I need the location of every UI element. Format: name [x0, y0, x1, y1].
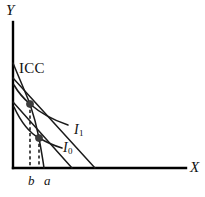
indifference-curve-i0-label: I0 — [63, 141, 72, 155]
tangency-point-1 — [26, 100, 33, 107]
i1-letter: I — [74, 122, 79, 137]
tangency-point-0 — [35, 134, 42, 141]
x-tick-label-a: a — [44, 174, 51, 187]
indifference-curve-i1-label: I1 — [74, 123, 83, 137]
diagram-canvas — [0, 0, 205, 197]
y-axis-label: Y — [6, 3, 14, 18]
x-tick-label-b: b — [28, 174, 35, 187]
x-axis-label: X — [190, 160, 199, 175]
i0-letter: I — [63, 140, 68, 155]
i0-subscript: 0 — [68, 146, 73, 156]
indifference-curve-i1 — [14, 85, 68, 125]
icc-diagram-figure: Y X ICC I1 I0 b a — [0, 0, 205, 197]
icc-curve-label: ICC — [19, 61, 45, 76]
i1-subscript: 1 — [79, 128, 84, 138]
indifference-curve-i0 — [14, 107, 62, 148]
